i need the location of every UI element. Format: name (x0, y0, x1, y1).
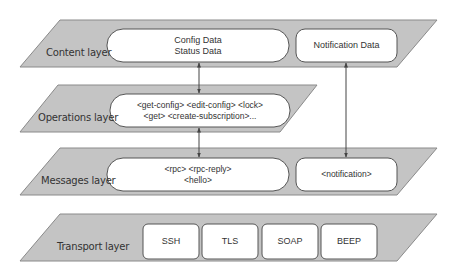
notification-message-text: <notification> (296, 158, 397, 191)
config-data-label: Config Data (174, 35, 222, 46)
soap-text: SOAP (262, 224, 318, 259)
notification-message-label: <notification> (321, 169, 372, 180)
beep-text: BEEP (321, 224, 377, 259)
operations-layer-label: Operations layer (38, 112, 118, 123)
transport-layer-label: Transport layer (57, 241, 129, 252)
status-data-label: Status Data (174, 46, 221, 57)
messages-layer-label: Messages layer (41, 175, 116, 186)
notification-data-text: Notification Data (296, 29, 397, 62)
tls-text: TLS (202, 224, 258, 259)
notification-data-label: Notification Data (313, 40, 379, 51)
operations-text: <get-config> <edit-config> <lock> <get> … (110, 94, 290, 127)
config-status-data-text: Config Data Status Data (107, 29, 289, 62)
soap-label: SOAP (277, 236, 302, 247)
operations-line-1: <get-config> <edit-config> <lock> (137, 100, 263, 111)
tls-label: TLS (222, 236, 239, 247)
ssh-text: SSH (143, 224, 199, 259)
operations-line-2: <get> <create-subscription>... (144, 111, 257, 122)
rpc-messages-text: <rpc> <rpc-reply> <hello> (107, 158, 289, 191)
ssh-label: SSH (162, 236, 181, 247)
rpc-line-2: <hello> (184, 175, 212, 186)
beep-label: BEEP (337, 236, 361, 247)
content-layer-label: Content layer (46, 47, 111, 58)
rpc-line-1: <rpc> <rpc-reply> (164, 164, 231, 175)
